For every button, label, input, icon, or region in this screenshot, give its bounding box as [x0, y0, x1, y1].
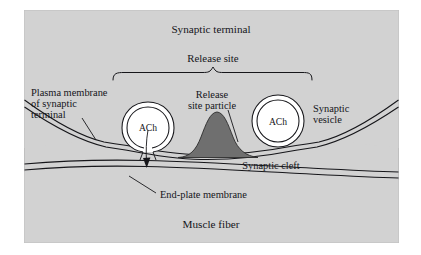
label-synaptic-vesicle-line2: vesicle — [313, 114, 342, 125]
label-plasma-membrane-line1: Plasma membrane — [31, 87, 108, 98]
synapse-diagram: Synaptic terminal Release site Plasma me… — [0, 0, 421, 255]
label-release-site: Release site — [187, 52, 238, 64]
label-end-plate-membrane: End-plate membrane — [160, 189, 247, 200]
label-plasma-membrane-line3: terminal — [31, 109, 66, 120]
muscle-fiber-region — [25, 168, 399, 242]
label-synaptic-vesicle-line1: Synaptic — [313, 103, 350, 114]
label-ach-fusing-vesicle: ACh — [139, 122, 157, 133]
figure-page: Synaptic terminal Release site Plasma me… — [0, 0, 421, 255]
label-release-site-particle-line1: Release — [196, 89, 229, 100]
label-ach-synaptic-vesicle: ACh — [269, 116, 287, 127]
label-muscle-fiber: Muscle fiber — [183, 218, 240, 230]
label-release-site-particle-line2: site particle — [188, 100, 237, 111]
label-synaptic-cleft: Synaptic cleft — [242, 160, 300, 171]
label-plasma-membrane-line2: of synaptic — [31, 98, 77, 109]
label-synaptic-terminal: Synaptic terminal — [171, 23, 250, 35]
